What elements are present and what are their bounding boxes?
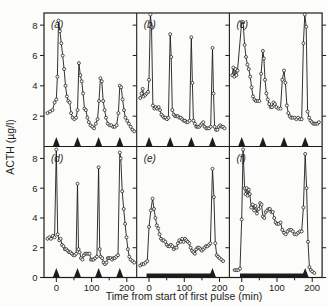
data-point-marker (300, 118, 303, 121)
data-point-marker (216, 128, 219, 131)
panel-letter-label: (e) (144, 153, 156, 164)
data-point-marker (76, 182, 79, 185)
pulse-triangle-icon (145, 137, 152, 147)
data-point-marker (188, 119, 191, 122)
data-point-marker (122, 208, 125, 211)
data-point-marker (82, 92, 85, 95)
data-point-marker (283, 69, 286, 72)
pulse-triangle-icon (167, 137, 174, 147)
y-tick-label: 2 (32, 111, 37, 122)
data-point-marker (141, 87, 144, 90)
data-point-marker (308, 116, 311, 119)
data-point-marker (128, 255, 131, 258)
data-point-marker (209, 242, 212, 245)
data-point-marker (153, 208, 156, 211)
data-point-marker (170, 56, 173, 59)
data-point-marker (62, 245, 65, 248)
data-point-marker (98, 248, 101, 251)
data-point-marker (80, 80, 83, 83)
data-point-marker (247, 188, 250, 191)
data-point-marker (164, 240, 167, 243)
panel-d: (d)024680100200 (32, 148, 135, 293)
y-tick-label: 8 (32, 20, 37, 31)
y-tick-label: 4 (32, 80, 37, 91)
data-point-marker (105, 116, 108, 119)
data-point-marker (94, 122, 97, 125)
data-point-marker (77, 62, 80, 65)
pulse-triangle-icon (95, 137, 102, 147)
data-point-marker (59, 237, 62, 240)
data-point-marker (100, 80, 103, 83)
data-point-marker (159, 109, 162, 112)
data-point-marker (65, 95, 68, 98)
x-tick-label: 100 (84, 282, 100, 293)
data-point-marker (78, 251, 81, 254)
data-point-marker (87, 121, 90, 124)
data-point-marker (98, 100, 101, 103)
data-point-marker (245, 56, 248, 59)
data-point-marker (133, 130, 136, 133)
data-point-marker (236, 69, 239, 72)
data-point-marker (258, 100, 261, 103)
data-point-marker (119, 157, 122, 160)
data-point-marker (257, 208, 260, 211)
data-point-marker (70, 112, 73, 115)
data-point-marker (123, 109, 126, 112)
panel-letter-label: (c) (236, 19, 248, 30)
data-point-marker (279, 221, 282, 224)
data-point-marker (193, 252, 196, 255)
data-point-marker (146, 260, 149, 263)
data-point-marker (250, 86, 253, 89)
data-point-marker (212, 196, 215, 199)
pulse-triangle-icon (209, 268, 216, 278)
y-tick-label: 4 (32, 212, 37, 223)
data-point-marker (53, 101, 56, 104)
data-point-marker (306, 110, 309, 113)
data-point-marker (75, 116, 78, 119)
pulse-triangle-icon (302, 268, 309, 278)
data-point-marker (93, 127, 96, 130)
data-point-marker (211, 167, 214, 170)
data-point-marker (75, 252, 78, 255)
data-point-marker (126, 248, 129, 251)
data-point-marker (191, 81, 194, 84)
x-tick-label: 200 (304, 282, 320, 293)
x-tick-label: 100 (269, 282, 285, 293)
data-point-marker (302, 42, 305, 45)
panel-letter-label: (d) (51, 153, 63, 164)
data-point-marker (212, 92, 215, 95)
data-point-marker (246, 63, 249, 66)
data-point-marker (252, 95, 255, 98)
data-point-marker (171, 109, 174, 112)
data-point-marker (248, 193, 251, 196)
pulse-triangle-icon (74, 137, 81, 147)
data-point-marker (271, 211, 274, 214)
data-point-marker (140, 92, 143, 95)
data-point-marker (302, 206, 305, 209)
pulse-triangle-icon (209, 137, 216, 147)
data-point-marker (139, 97, 142, 100)
data-point-marker (102, 100, 105, 103)
pulse-triangle-icon (53, 268, 60, 278)
data-point-marker (117, 112, 120, 115)
acth-six-panel-chart: (a)2468(b)(c)(d)024680100200(e)0100200(f… (0, 0, 328, 306)
y-tick-label: 6 (32, 183, 37, 194)
y-axis-label: ACTH (µg/l) (4, 119, 16, 175)
data-point-marker (188, 242, 191, 245)
y-tick-label: 6 (32, 50, 37, 61)
data-point-marker (64, 84, 67, 87)
data-point-marker (129, 125, 132, 128)
pulse-triangle-icon (302, 137, 309, 147)
data-point-marker (118, 151, 121, 154)
data-point-marker (253, 209, 256, 212)
pulse-triangle-icon (188, 137, 195, 147)
data-point-marker (121, 190, 124, 193)
data-point-marker (243, 43, 246, 46)
data-point-marker (260, 72, 263, 75)
panel-f: (f)0100200 (225, 148, 326, 293)
data-point-marker (240, 218, 243, 221)
data-point-marker (175, 246, 178, 249)
data-point-marker (63, 68, 66, 71)
acth-trace (140, 15, 224, 130)
pulse-triangle-icon (74, 268, 81, 278)
